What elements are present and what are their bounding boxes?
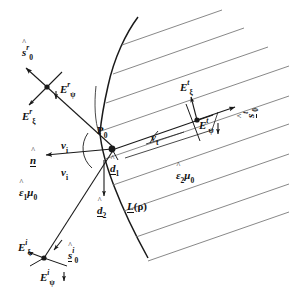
- label-eps2-mu0: ^ε2μ0: [176, 163, 194, 185]
- label-s0-incident: ^si0: [68, 243, 78, 265]
- label-d2-hat: ^d2: [97, 198, 106, 220]
- label-d1-hat: ^d1: [110, 156, 119, 178]
- reflected-field-axes: [29, 72, 62, 105]
- incidence-point-marker: [109, 146, 116, 153]
- label-s0-transmitted: ^st0: [238, 108, 260, 118]
- label-E-xi-reflected: Erξ: [22, 107, 36, 126]
- ray-optics-figure: ^sr0 Erψ Erξ ^n νi νi ^ε1μ0 P0 ^d1 ^d2 ν…: [0, 0, 290, 293]
- label-s0-reflected: ^sr0: [22, 40, 33, 62]
- label-E-xi-incident: Eiξ: [18, 238, 31, 257]
- label-L-rho: L(ρ): [127, 197, 147, 213]
- figure-canvas: [0, 0, 290, 293]
- label-nu-i-lower: νi: [61, 163, 68, 182]
- label-nu-t: νt: [151, 128, 158, 147]
- label-E-xi-transmitted: Etξ: [180, 78, 193, 97]
- normal-vector: [46, 149, 112, 155]
- label-P0: P0: [97, 121, 107, 140]
- label-n-hat: ^n: [30, 148, 36, 167]
- label-E-psi-incident: Eiψ: [40, 268, 55, 287]
- label-nu-i-upper: νi: [61, 136, 68, 155]
- label-eps1-mu0: ^ε1μ0: [19, 180, 37, 202]
- label-E-psi-reflected: Erψ: [60, 80, 75, 99]
- label-E-psi-transmitted: Etψ: [199, 116, 214, 135]
